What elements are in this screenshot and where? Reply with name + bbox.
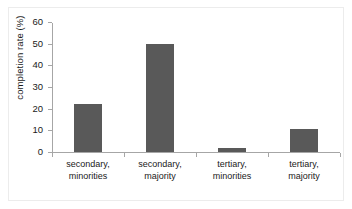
y-tick-label: 20 [32, 103, 43, 114]
y-tick-label: 0 [38, 146, 43, 157]
y-tick: 20 [48, 109, 52, 110]
y-tick-label: 30 [32, 81, 43, 92]
x-category-label: tertiary,minorities [196, 159, 268, 182]
bar [146, 44, 174, 152]
x-category-label-line: minorities [196, 171, 268, 183]
x-category-label-line: majority [124, 171, 196, 183]
y-axis-title: completion rate (%) [14, 3, 25, 113]
x-category-label-line: tertiary, [268, 159, 340, 171]
x-category-label-line: secondary, [52, 159, 124, 171]
y-tick-label: 60 [32, 16, 43, 27]
y-tick-label: 40 [32, 59, 43, 70]
x-category-label: tertiary,majority [268, 159, 340, 182]
plot-area: 0102030405060 [52, 23, 340, 153]
x-category-label-line: minorities [52, 171, 124, 183]
bar-chart-figure: completion rate (%) 0102030405060 second… [0, 0, 352, 209]
x-tick [196, 153, 197, 157]
x-category-label: secondary,majority [124, 159, 196, 182]
y-tick-label: 50 [32, 38, 43, 49]
x-tick [124, 153, 125, 157]
x-category-label: secondary,minorities [52, 159, 124, 182]
y-tick: 50 [48, 44, 52, 45]
bar [74, 104, 102, 152]
x-tick [52, 153, 53, 157]
y-tick: 60 [48, 22, 52, 23]
x-category-label-line: majority [268, 171, 340, 183]
x-tick [340, 153, 341, 157]
x-tick [268, 153, 269, 157]
y-tick: 40 [48, 65, 52, 66]
x-category-label-line: tertiary, [196, 159, 268, 171]
y-axis-line [52, 23, 53, 153]
bar [290, 129, 318, 152]
y-tick: 30 [48, 87, 52, 88]
y-tick-label: 10 [32, 124, 43, 135]
bar [218, 148, 246, 152]
y-tick: 10 [48, 130, 52, 131]
x-category-label-line: secondary, [124, 159, 196, 171]
